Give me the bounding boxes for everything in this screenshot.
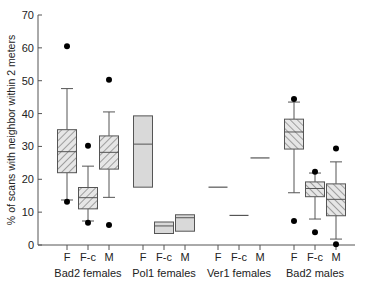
- y-tick-label: 50: [22, 75, 34, 87]
- y-axis-label: % of scans with neighbor within 2 meters: [5, 35, 17, 225]
- x-tick-label: F-c: [231, 251, 247, 263]
- x-tick-label: F-c: [307, 251, 323, 263]
- group-label: Bad2 females: [54, 267, 122, 279]
- x-tick-label: M: [104, 251, 113, 263]
- box: [155, 222, 174, 234]
- x-axis: FF-cMBad2 femalesFF-cMPol1 femalesFF-cMV…: [38, 245, 355, 279]
- y-tick-label: 70: [22, 9, 34, 21]
- x-tick-label: M: [180, 251, 189, 263]
- outlier-dot: [64, 43, 70, 49]
- x-tick-label: F: [140, 251, 147, 263]
- outlier-dot: [106, 222, 112, 228]
- y-tick-label: 0: [28, 239, 34, 251]
- group-label: Pol1 females: [132, 267, 196, 279]
- y-tick-label: 40: [22, 108, 34, 120]
- outlier-dot: [64, 199, 70, 205]
- y-axis: 010203040506070: [22, 9, 42, 251]
- box-group: [285, 96, 346, 247]
- group-label: Bad2 males: [286, 267, 345, 279]
- box: [134, 116, 153, 187]
- box: [306, 182, 325, 197]
- plot-area: [58, 43, 346, 247]
- x-tick-label: M: [331, 251, 340, 263]
- x-tick-label: F: [215, 251, 222, 263]
- outlier-dot: [85, 220, 91, 226]
- box-group: [58, 43, 119, 228]
- y-tick-label: 10: [22, 206, 34, 218]
- x-tick-label: M: [255, 251, 264, 263]
- x-tick-label: F-c: [156, 251, 172, 263]
- y-tick-label: 60: [22, 42, 34, 54]
- outlier-dot: [312, 169, 318, 175]
- outlier-dot: [333, 145, 339, 151]
- x-tick-label: F-c: [80, 251, 96, 263]
- outlier-dot: [333, 241, 339, 247]
- outlier-dot: [312, 229, 318, 235]
- box-group: [134, 116, 195, 234]
- x-tick-label: F: [64, 251, 71, 263]
- box-plot-chart: 010203040506070 FF-cMBad2 femalesFF-cMPo…: [0, 0, 368, 286]
- x-tick-label: F: [291, 251, 298, 263]
- outlier-dot: [106, 77, 112, 83]
- group-label: Ver1 females: [207, 267, 272, 279]
- outlier-dot: [291, 96, 297, 102]
- y-tick-label: 30: [22, 140, 34, 152]
- outlier-dot: [291, 218, 297, 224]
- box: [285, 119, 304, 149]
- box-group: [209, 158, 270, 216]
- y-tick-label: 20: [22, 173, 34, 185]
- outlier-dot: [85, 143, 91, 149]
